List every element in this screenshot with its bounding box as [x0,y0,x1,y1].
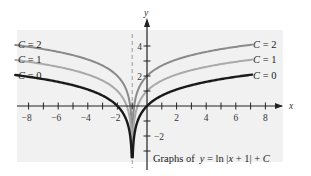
curve-label-right: C = 2 [253,39,276,50]
y-axis-arrow-icon [144,18,150,27]
y-tick-label: 2 [137,72,142,82]
y-axis-label: y [143,8,149,18]
curve-label-right: C = 1 [253,54,276,65]
caption: Graphs ofy = ln |x + 1| + C [153,153,271,164]
x-tick-label: −6 [51,113,61,123]
x-tick-label: −2 [110,113,120,123]
x-tick-label: −8 [22,113,32,123]
x-axis-label: x [288,101,294,111]
chart: −8−6−4−2246842−2yx C = 2C = 1C = 0C = 2C… [0,0,311,176]
x-tick-label: −4 [81,113,91,123]
plot-background [17,30,283,162]
curve-label-left: C = 0 [18,70,41,81]
curve-label-left: C = 1 [18,54,41,65]
curve-label-right: C = 0 [253,70,276,81]
x-tick-label: 8 [263,113,268,123]
x-tick-label: 4 [204,113,209,123]
y-tick-label: −2 [154,132,164,142]
caption-text: Graphs ofy = ln |x + 1| + C [153,153,271,164]
x-tick-label: 2 [174,113,179,123]
y-tick-label: 4 [137,42,142,52]
curve-label-left: C = 2 [18,39,41,50]
x-tick-label: 6 [233,113,238,123]
